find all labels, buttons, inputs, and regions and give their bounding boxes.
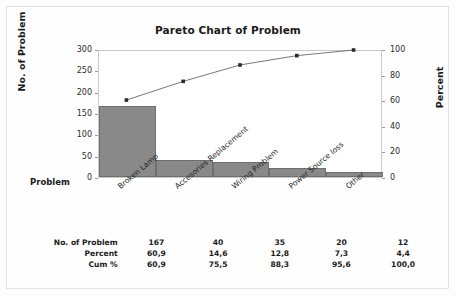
table-cell-r0-c3: 20: [311, 238, 373, 249]
y-left-tick-label-6: 300: [56, 45, 92, 54]
data-table: No. of Problem16740352012Percent60,914,6…: [14, 238, 434, 271]
table-cell-r1-c1: 14,6: [187, 249, 249, 260]
table-cell-r2-c2: 88,3: [249, 260, 311, 271]
table-cell-r2-c1: 75,5: [187, 260, 249, 271]
table-spacer: [118, 238, 126, 249]
cumulative-marker-4: [352, 48, 356, 52]
table-row-label-1: Percent: [14, 249, 118, 260]
y-left-tick-label-3: 150: [56, 109, 92, 118]
y-left-tick-label-5: 250: [56, 66, 92, 75]
table-cell-r1-c4: 4,4: [372, 249, 434, 260]
y-right-tick-label-1: 20: [390, 147, 416, 156]
y-right-tick-label-2: 40: [390, 122, 416, 131]
y-right-tick-label-0: 0: [390, 173, 416, 182]
chart-title: Pareto Chart of Problem: [0, 24, 456, 36]
y-left-tick-label-0: 0: [56, 173, 92, 182]
table-row-label-2: Cum %: [14, 260, 118, 271]
y-left-tick-label-4: 200: [56, 88, 92, 97]
table-row: No. of Problem16740352012: [14, 238, 434, 249]
y-right-tick-mark-1: [382, 152, 385, 153]
y-right-tick-mark-2: [382, 127, 385, 128]
table-row-label-0: No. of Problem: [14, 238, 118, 249]
cumulative-marker-3: [295, 54, 299, 58]
cumulative-marker-2: [238, 63, 242, 67]
y-right-tick-mark-5: [382, 50, 385, 51]
table-row: Cum %60,975,588,395,6100,0: [14, 260, 434, 271]
y-left-tick-mark-0: [95, 178, 98, 179]
chart-page: Pareto Chart of Problem No. of Problem P…: [0, 0, 456, 296]
y-left-tick-label-1: 50: [56, 152, 92, 161]
table-cell-r0-c2: 35: [249, 238, 311, 249]
y-axis-right-title: Percent: [434, 33, 445, 143]
table-cell-r0-c1: 40: [187, 238, 249, 249]
y-left-tick-label-2: 100: [56, 130, 92, 139]
y-right-tick-label-4: 80: [390, 71, 416, 80]
cumulative-marker-0: [125, 98, 129, 102]
table-row: Percent60,914,612,87,34,4: [14, 249, 434, 260]
table-cell-r0-c4: 12: [372, 238, 434, 249]
table-spacer: [118, 260, 126, 271]
y-right-tick-mark-4: [382, 76, 385, 77]
table-cell-r1-c3: 7,3: [311, 249, 373, 260]
cumulative-marker-1: [181, 80, 185, 84]
cumulative-line-path: [126, 50, 353, 100]
table-cell-r2-c4: 100,0: [372, 260, 434, 271]
table-cell-r2-c3: 95,6: [311, 260, 373, 271]
y-right-tick-label-3: 60: [390, 96, 416, 105]
y-right-tick-label-5: 100: [390, 45, 416, 54]
y-right-tick-mark-0: [382, 178, 385, 179]
cumulative-line-series: [98, 50, 382, 178]
table-spacer: [118, 249, 126, 260]
pareto-summary-table: No. of Problem16740352012Percent60,914,6…: [14, 238, 434, 271]
table-cell-r1-c0: 60,9: [126, 249, 188, 260]
table-cell-r0-c0: 167: [126, 238, 188, 249]
table-cell-r2-c0: 60,9: [126, 260, 188, 271]
y-right-tick-mark-3: [382, 101, 385, 102]
table-cell-r1-c2: 12,8: [249, 249, 311, 260]
y-axis-left-title: No. of Problem: [16, 0, 27, 117]
